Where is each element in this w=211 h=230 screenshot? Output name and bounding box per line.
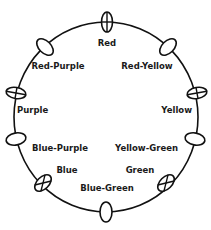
node-green (155, 172, 178, 195)
label-yellow-green: Yellow-Green (114, 143, 178, 153)
label-yellow: Yellow (160, 105, 192, 115)
node-ellipse-blue-green (100, 202, 112, 222)
node-yellow (186, 86, 208, 100)
node-purple (5, 86, 27, 100)
color-wheel-diagram: RedRed-YellowYellowYellow-GreenGreenBlue… (0, 0, 211, 230)
label-blue-purple: Blue-Purple (32, 143, 88, 153)
color-labels: RedRed-YellowYellowYellow-GreenGreenBlue… (17, 38, 192, 193)
node-ellipse-yellow-green (184, 131, 206, 146)
node-blue (32, 172, 55, 195)
label-blue: Blue (56, 165, 77, 175)
label-red-yellow: Red-Yellow (121, 61, 172, 71)
node-blue-purple (5, 131, 27, 146)
node-blue-green (100, 202, 112, 222)
node-ellipse-blue-purple (5, 131, 27, 146)
label-red-purple: Red-Purple (31, 61, 84, 71)
label-green: Green (126, 165, 155, 175)
label-red: Red (98, 38, 116, 48)
label-blue-green: Blue-Green (80, 183, 134, 193)
label-purple: Purple (17, 105, 48, 115)
node-red (102, 12, 113, 32)
node-yellow-green (184, 131, 206, 146)
